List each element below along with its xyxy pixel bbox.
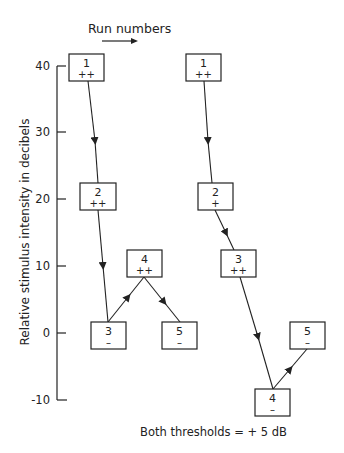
run-direction-arrowhead-icon (131, 38, 138, 44)
left-run-4: 4 ++ (127, 250, 162, 277)
tick-0: 0 (43, 326, 50, 340)
run-response: ++ (136, 265, 153, 276)
right-run-3: 3 ++ (221, 250, 256, 277)
left-run-1: 1 ++ (69, 54, 104, 81)
run-response: ++ (78, 69, 95, 80)
run-response: ++ (90, 198, 107, 209)
right-run-1: 1 ++ (186, 54, 221, 81)
right-run-2: 2 + (198, 183, 233, 210)
staircase-diagram: Run numbers 40 30 20 10 0 -10 Relative s… (0, 0, 344, 453)
run-response: ++ (195, 69, 212, 80)
right-run-5: 5 – (290, 322, 325, 349)
run-numbers-label: Run numbers (88, 21, 171, 36)
left-run-2: 2 ++ (80, 183, 116, 210)
y-axis-label: Relative stimulus intensity in decibels (18, 119, 32, 346)
run-response: – (270, 404, 275, 415)
run-response: + (211, 198, 219, 209)
tick-minus-10: -10 (31, 393, 50, 407)
tick-20: 20 (35, 192, 50, 206)
tick-30: 30 (35, 125, 50, 139)
run-response: – (305, 337, 310, 348)
run-response: – (106, 337, 111, 348)
y-axis (57, 66, 67, 400)
thresholds-caption: Both thresholds = + 5 dB (140, 425, 287, 439)
tick-10: 10 (35, 259, 50, 273)
y-tick-labels: 40 30 20 10 0 -10 (31, 59, 50, 407)
run-response: ++ (230, 265, 247, 276)
tick-40: 40 (35, 59, 50, 73)
left-run-5: 5 – (162, 322, 197, 349)
run-response: – (177, 337, 182, 348)
right-run-4: 4 – (255, 389, 290, 416)
left-run-3: 3 – (91, 322, 126, 349)
